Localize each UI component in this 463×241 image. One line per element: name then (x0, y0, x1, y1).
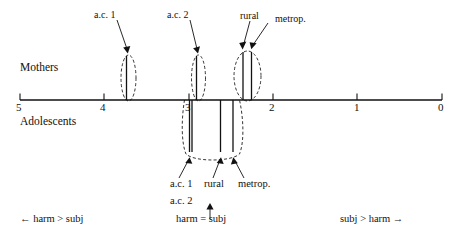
ci-mothers-rural-metrop (234, 51, 261, 101)
ci-adolescents-all (182, 100, 243, 160)
callout-mothers-ac1: a.c. 1 (94, 10, 115, 20)
row-label-adolescents: Adolescents (20, 116, 76, 128)
adolescents-bars (190, 100, 234, 152)
ci-mothers-ac1 (121, 55, 136, 101)
axis-tick-label-2: 2 (269, 102, 275, 113)
callout-adolescents-metrop: metrop. (238, 179, 270, 190)
callout-adolescents-ac1: a.c. 1 (170, 179, 192, 190)
axis-tick-label-1: 1 (354, 102, 360, 113)
callout-adolescents-rural: rural (204, 179, 224, 190)
callout-mothers-ac2: a.c. 2 (167, 10, 188, 20)
axis-ticks (20, 94, 442, 101)
mothers-confidence-ellipses (121, 51, 261, 101)
axis-tick-label-3: 3 (185, 102, 191, 113)
adolescents-leader-arrows (179, 157, 244, 178)
mothers-leader-arrows (117, 20, 268, 54)
axis-tick-label-0: 0 (438, 102, 444, 113)
callout-mothers-metrop: metrop. (275, 14, 306, 24)
ci-mothers-ac2 (192, 55, 206, 101)
callout-adolescents-ac2: a.c. 2 (170, 196, 192, 207)
mothers-bars (127, 52, 252, 100)
axis-tick-label-5: 5 (16, 102, 22, 113)
footer-center-harm-equals: harm = subj (176, 214, 226, 225)
axis-tick-label-4: 4 (100, 102, 106, 113)
row-label-mothers: Mothers (20, 62, 58, 74)
callout-mothers-rural: rural (240, 11, 259, 21)
figure-canvas: Mothers Adolescents 5 4 3 2 1 0 a.c. 1 a… (0, 0, 463, 241)
footer-left-harm-greater: ← harm > subj (20, 214, 83, 225)
footer-right-subj-greater: subj > harm → (340, 214, 403, 225)
